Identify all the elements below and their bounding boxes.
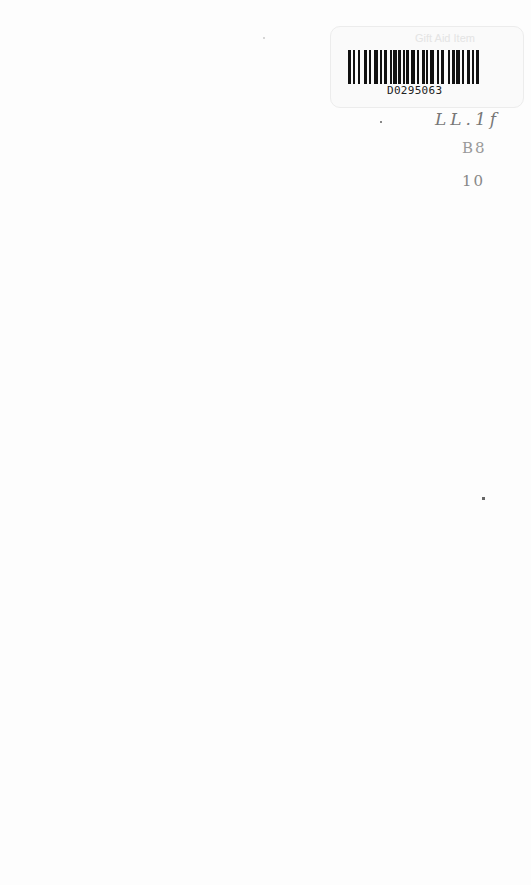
gift-aid-sticker: Gift Aid Item: [330, 26, 524, 108]
barcode: [348, 50, 486, 84]
blank-page: Gift Aid Item: [0, 0, 531, 885]
barcode-number: D0295063: [387, 84, 442, 97]
ink-dot: [482, 497, 485, 500]
handwritten-note-line-1: LL.1f: [435, 109, 500, 129]
page-speck: [263, 37, 265, 39]
pencil-mark: [380, 121, 382, 123]
handwritten-note-line-3: 10: [462, 172, 485, 190]
sticker-title: Gift Aid Item: [415, 32, 475, 44]
handwritten-note-line-2: B8: [462, 139, 487, 157]
